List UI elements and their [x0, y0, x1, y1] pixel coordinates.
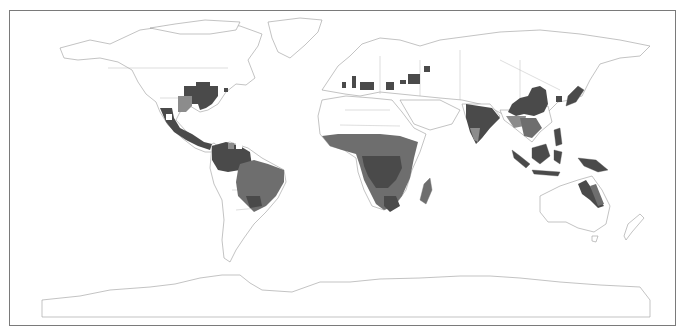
antarctica	[42, 275, 650, 317]
north-america	[60, 22, 262, 152]
new-zealand	[624, 214, 644, 240]
tasmania	[592, 236, 598, 242]
greenland	[268, 18, 322, 58]
world-map	[0, 0, 684, 335]
